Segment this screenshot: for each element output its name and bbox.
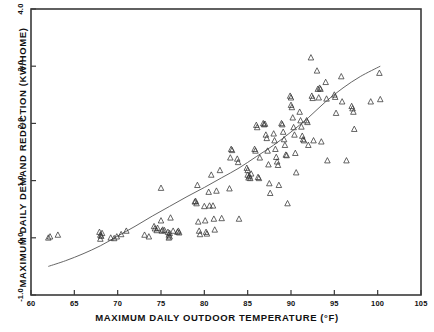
data-point-marker bbox=[197, 231, 203, 236]
x-tick-label: 80 bbox=[200, 299, 209, 308]
x-tick-label: 100 bbox=[371, 299, 384, 308]
data-point-marker bbox=[206, 189, 212, 194]
plot-frame bbox=[31, 9, 421, 295]
data-point-marker bbox=[202, 218, 208, 223]
data-point-marker bbox=[352, 126, 358, 131]
data-point-marker bbox=[196, 219, 202, 224]
data-point-marker bbox=[158, 218, 164, 223]
data-point-marker bbox=[274, 154, 280, 159]
data-point-marker bbox=[267, 190, 273, 195]
x-tick-label: 85 bbox=[243, 299, 252, 308]
data-point-marker bbox=[308, 55, 314, 60]
scatter-plot-figure: 6065707580859095100105 -1.00.01.02.03.04… bbox=[0, 0, 434, 332]
x-tick-label: 70 bbox=[113, 299, 122, 308]
data-point-marker bbox=[228, 155, 234, 160]
data-point-marker bbox=[271, 131, 277, 136]
data-point-marker bbox=[377, 70, 383, 75]
data-point-marker bbox=[291, 124, 297, 129]
data-point-marker bbox=[235, 159, 241, 164]
data-point-marker bbox=[142, 232, 148, 237]
data-point-marker bbox=[276, 182, 282, 187]
data-point-marker bbox=[195, 182, 201, 187]
x-tick-label: 105 bbox=[414, 299, 427, 308]
x-tick-label: 75 bbox=[157, 299, 166, 308]
data-point-marker bbox=[293, 170, 299, 175]
y-axis-title: MAXIMUM DAILY DEMAND REDUCTION (KW/HOME) bbox=[17, 8, 28, 308]
data-point-marker bbox=[292, 132, 298, 137]
data-point-marker bbox=[275, 162, 281, 167]
data-point-marker bbox=[108, 235, 114, 240]
data-point-marker bbox=[212, 227, 218, 232]
data-point-marker bbox=[214, 188, 220, 193]
x-tick-label: 65 bbox=[70, 299, 79, 308]
data-point-marker bbox=[170, 228, 176, 233]
data-point-marker bbox=[209, 172, 215, 177]
data-point-marker bbox=[280, 129, 286, 134]
data-point-marker bbox=[297, 109, 303, 114]
data-point-marker bbox=[339, 99, 345, 104]
data-point-marker bbox=[217, 167, 223, 172]
data-point-marker bbox=[227, 186, 233, 191]
x-tick-label: 95 bbox=[330, 299, 339, 308]
data-point-marker bbox=[333, 110, 339, 115]
x-tick-label: 90 bbox=[287, 299, 296, 308]
data-point-marker bbox=[325, 158, 331, 163]
x-tick-label: 60 bbox=[27, 299, 36, 308]
data-point-marker bbox=[168, 215, 174, 220]
data-point-marker bbox=[285, 200, 291, 205]
data-point-marker bbox=[351, 109, 357, 114]
data-point-marker bbox=[378, 96, 384, 101]
data-point-marker bbox=[264, 135, 270, 140]
data-point-marker bbox=[316, 95, 322, 100]
x-axis-title: MAXIMUM DAILY OUTDOOR TEMPERATURE (°F) bbox=[0, 312, 434, 323]
data-point-marker bbox=[219, 215, 225, 220]
data-point-marker bbox=[55, 232, 61, 237]
data-point-marker bbox=[202, 203, 208, 208]
data-point-marker bbox=[282, 142, 288, 147]
data-point-marker bbox=[314, 68, 320, 73]
data-point-marker bbox=[272, 138, 278, 143]
data-point-marker bbox=[158, 185, 164, 190]
data-points bbox=[46, 55, 383, 242]
data-point-marker bbox=[236, 216, 242, 221]
data-point-marker bbox=[339, 73, 345, 78]
data-point-marker bbox=[267, 180, 273, 185]
data-point-marker bbox=[293, 150, 299, 155]
data-point-marker bbox=[273, 146, 279, 151]
data-point-marker bbox=[298, 118, 304, 123]
data-point-marker bbox=[319, 139, 325, 144]
data-point-marker bbox=[290, 115, 296, 120]
data-point-marker bbox=[368, 99, 374, 104]
data-point-marker bbox=[344, 158, 350, 163]
data-point-marker bbox=[323, 79, 329, 84]
data-point-marker bbox=[311, 138, 317, 143]
data-point-marker bbox=[211, 216, 217, 221]
data-point-marker bbox=[266, 162, 272, 167]
plot-canvas bbox=[0, 0, 434, 332]
